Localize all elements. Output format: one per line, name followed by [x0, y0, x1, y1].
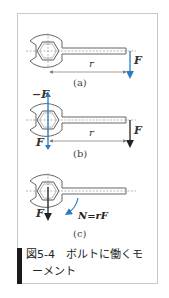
force-label-a: F [134, 54, 142, 67]
figure-caption: 図5-4 ボルトに働くモ ーメント [26, 246, 158, 280]
caption-line-1: 図5-4 ボルトに働くモ [26, 248, 143, 261]
moment-arrow-c [68, 198, 78, 213]
panel-label-a: (a) [73, 77, 87, 88]
caption-line-2: ーメント [26, 263, 158, 280]
distance-label-b: r [89, 127, 94, 138]
caption-marker [17, 248, 22, 284]
force-label-b: F [134, 124, 142, 137]
panel-a [26, 33, 136, 75]
neg-force-label-b: −F [32, 88, 49, 101]
panel-label-c: (c) [73, 228, 86, 239]
force-label-c: F [36, 207, 44, 220]
panel-label-b: (b) [73, 148, 87, 159]
distance-label-a: r [89, 58, 94, 69]
moment-label-c: N=rF [78, 210, 108, 221]
force-label-b-left: F [36, 136, 44, 149]
